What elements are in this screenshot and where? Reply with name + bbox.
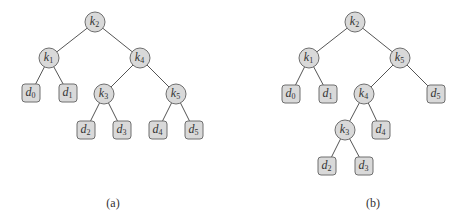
node-label-k4: k4 [359, 87, 368, 101]
diagram-canvas [0, 0, 465, 220]
node-label-d1: d1 [323, 87, 333, 101]
node-label-d5: d5 [189, 123, 199, 137]
node-label-k1: k1 [304, 51, 313, 65]
node-label-k5: k5 [395, 51, 404, 65]
node-label-d4: d4 [376, 123, 386, 137]
caption-a: (a) [106, 196, 119, 211]
node-label-k5: k5 [171, 87, 180, 101]
node-label-d2: d2 [81, 123, 91, 137]
node-label-d5: d5 [431, 87, 441, 101]
node-label-k3: k3 [99, 87, 108, 101]
node-label-k3: k3 [340, 123, 349, 137]
node-label-k4: k4 [135, 51, 144, 65]
node-label-k2: k2 [350, 15, 359, 29]
caption-b: (b) [366, 196, 380, 211]
node-label-d2: d2 [322, 159, 332, 173]
node-label-k2: k2 [90, 15, 99, 29]
node-label-d1: d1 [63, 86, 73, 100]
node-label-d0: d0 [26, 86, 36, 100]
node-label-d0: d0 [286, 87, 296, 101]
node-label-d3: d3 [117, 123, 127, 137]
node-label-k1: k1 [44, 51, 53, 65]
node-label-d4: d4 [153, 123, 163, 137]
tree-a [22, 12, 203, 139]
node-label-d3: d3 [359, 159, 369, 173]
